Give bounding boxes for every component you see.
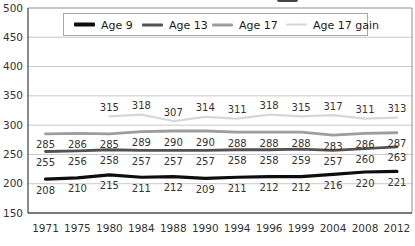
data-label: 258 [100, 155, 119, 166]
data-label: 311 [355, 104, 374, 115]
data-label: 288 [228, 138, 247, 149]
data-label: 259 [292, 155, 311, 166]
x-tick: 2012 [384, 222, 411, 234]
data-label: 286 [355, 139, 374, 150]
data-label: 283 [324, 141, 343, 152]
x-tick: 1975 [64, 222, 91, 234]
data-label: 212 [292, 182, 311, 193]
x-tick: 1988 [160, 222, 187, 234]
data-label: 209 [196, 184, 215, 195]
data-label: 258 [228, 155, 247, 166]
legend-label: Age 9 [101, 18, 133, 31]
data-label: 317 [324, 101, 343, 112]
x-tick: 1984 [128, 222, 155, 234]
age-13-line-swatch [142, 23, 163, 26]
series-line-age-13 [46, 147, 397, 152]
plot-area: 2082102152112122092112122122162202212552… [0, 0, 415, 246]
data-label: 285 [100, 139, 119, 150]
data-label: 287 [387, 138, 406, 149]
x-tick: 2008 [352, 222, 379, 234]
data-label: 256 [68, 156, 87, 167]
data-label: 307 [164, 107, 183, 118]
legend-item-age-13: Age 13 [142, 18, 208, 31]
legend-label: Age 17 gain [313, 18, 379, 31]
data-label: 313 [387, 103, 406, 114]
data-label: 215 [100, 180, 119, 191]
data-label: 208 [36, 185, 55, 196]
data-label: 311 [228, 104, 247, 115]
data-label: 315 [292, 102, 311, 113]
series-line-age-9 [46, 171, 397, 179]
line-chart: 500 450 400 350 300 250 200 150 20821021… [0, 0, 415, 246]
series-line-age-17-gain [109, 115, 397, 121]
data-label: 288 [260, 138, 279, 149]
data-label: 220 [355, 178, 374, 189]
data-label: 263 [387, 152, 406, 163]
data-label: 257 [132, 156, 151, 167]
data-label: 285 [36, 139, 55, 150]
x-tick: 1999 [288, 222, 315, 234]
data-label: 314 [196, 102, 215, 113]
data-label: 257 [164, 156, 183, 167]
data-label: 288 [292, 138, 311, 149]
data-label: 212 [260, 182, 279, 193]
data-label: 216 [324, 180, 343, 191]
data-label: 212 [164, 182, 183, 193]
data-label: 290 [164, 137, 183, 148]
legend-item-age-9: Age 9 [74, 18, 133, 31]
data-label: 260 [355, 154, 374, 165]
data-label: 257 [196, 156, 215, 167]
age-9-line-swatch [74, 23, 95, 27]
legend-label: Age 13 [169, 18, 208, 31]
data-label: 290 [196, 137, 215, 148]
data-label: 258 [260, 155, 279, 166]
series-line-age-17 [46, 131, 397, 135]
data-label: 211 [132, 183, 151, 194]
legend-item-age-17: Age 17 [212, 18, 278, 31]
x-tick: 1971 [32, 222, 59, 234]
legend-label: Age 17 [239, 18, 278, 31]
data-label: 286 [68, 139, 87, 150]
age-17-gain-line-swatch [286, 24, 307, 26]
x-tick: 1996 [256, 222, 283, 234]
data-label: 257 [324, 156, 343, 167]
data-label: 315 [100, 102, 119, 113]
data-label: 318 [260, 100, 279, 111]
data-label: 318 [132, 100, 151, 111]
x-tick: 1990 [192, 222, 219, 234]
x-tick: 1980 [96, 222, 123, 234]
x-tick: 2004 [320, 222, 347, 234]
data-label: 255 [36, 157, 55, 168]
data-label: 289 [132, 137, 151, 148]
legend-item-age-17-gain: Age 17 gain [286, 18, 379, 31]
data-label: 221 [387, 177, 406, 188]
x-tick: 1994 [224, 222, 251, 234]
legend: Age 9 Age 13 Age 17 Age 17 gain [63, 13, 368, 36]
data-label: 211 [228, 183, 247, 194]
age-17-line-swatch [212, 23, 233, 26]
data-label: 210 [68, 183, 87, 194]
